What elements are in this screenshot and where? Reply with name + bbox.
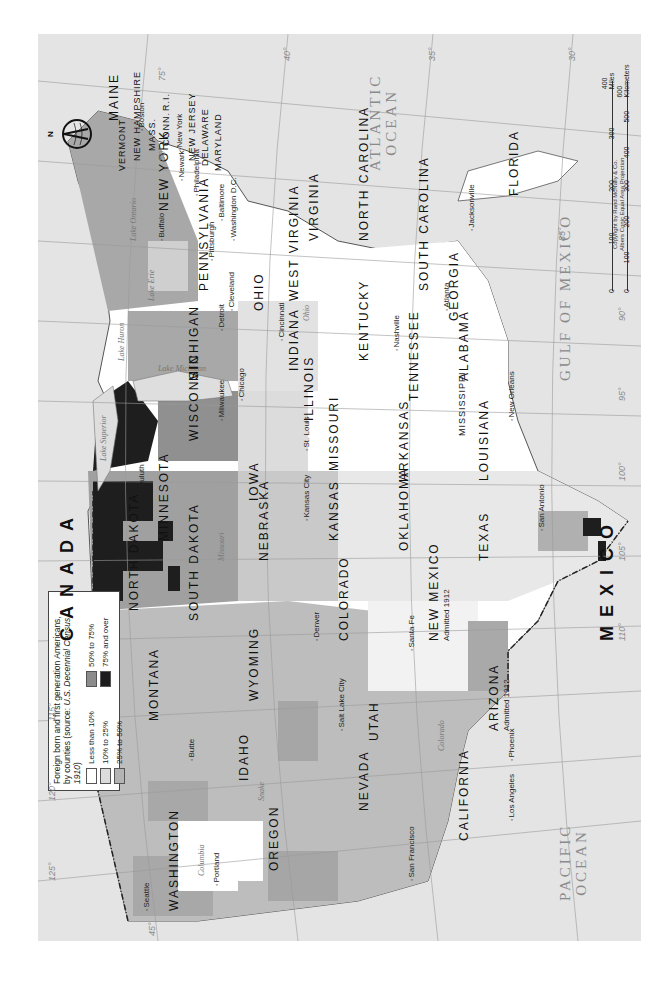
label-mexico: MEXICO xyxy=(598,516,616,641)
label-river-snake: Snake xyxy=(258,782,266,801)
label-delaware: DELAWARE xyxy=(201,108,210,166)
lon-90: 90° xyxy=(618,307,627,321)
legend-label: 25% to 50% xyxy=(115,721,124,764)
city-los-angeles: Los Angeles xyxy=(508,774,516,821)
city-duluth: Duluth xyxy=(138,464,146,491)
label-lake-huron: Lake Huron xyxy=(118,323,126,361)
label-ri: R.I. xyxy=(162,93,171,111)
city-washington-dc: Washington D.C. xyxy=(230,177,238,241)
label-kentucky: KENTUCKY xyxy=(358,280,370,361)
legend-item-25-50: 25% to 50% xyxy=(114,695,125,784)
label-washington: WASHINGTON xyxy=(168,809,180,911)
label-pacific-ocean: PACIFICOCEAN xyxy=(558,824,590,901)
label-nevada: NEVADA xyxy=(358,751,370,811)
city-denver: Denver xyxy=(313,612,321,641)
label-mass: MASS. xyxy=(148,118,157,151)
label-arizona: ARIZONA xyxy=(488,664,500,731)
label-mississippi: MISSISSIPPI xyxy=(458,371,467,436)
city-seattle: Seattle xyxy=(143,883,151,911)
legend-label: 10% to 25% xyxy=(101,721,110,764)
lon-100: 100° xyxy=(618,462,627,481)
compass-rose: N xyxy=(60,117,94,151)
label-wyoming: WYOMING xyxy=(248,627,260,701)
legend-label: Less than 10% xyxy=(87,711,96,764)
legend-item-50-75: 50% to 75% xyxy=(86,598,97,687)
legend-label: 75% and over xyxy=(101,618,110,667)
city-chicago: Chicago xyxy=(238,368,246,401)
label-lake-ontario: Lake Ontario xyxy=(130,198,138,241)
ocean-line: OCEAN xyxy=(573,829,589,896)
city-atlanta: Atlanta xyxy=(443,283,451,311)
lat-30: 30° xyxy=(568,47,577,61)
map-frame: Foreign born and first generation Americ… xyxy=(38,34,641,941)
label-tennessee: TENNESSEE xyxy=(408,310,420,401)
label-illinois: ILLINOIS xyxy=(303,356,315,421)
legend-title-suffix: ) xyxy=(72,762,82,765)
city-boston: Boston xyxy=(138,103,146,131)
legend-label: 50% to 75% xyxy=(87,624,96,667)
city-milwaukee: Milwaukee xyxy=(218,380,226,421)
label-wisconsin: WISCONSIN xyxy=(188,354,200,441)
label-new-mexico-admitted: Admitted 1912 xyxy=(443,589,451,641)
label-atlantic-ocean: ATLANTICOCEAN xyxy=(368,74,400,171)
label-montana: MONTANA xyxy=(148,648,160,721)
legend-title-line1: Foreign born and first generation Americ… xyxy=(52,616,62,784)
label-idaho: IDAHO xyxy=(238,733,250,781)
compass-icon xyxy=(60,117,94,151)
lon-120: 120° xyxy=(48,782,57,801)
city-cincinnati: Cincinnati xyxy=(278,302,286,341)
city-new-orleans: New Orleans xyxy=(508,371,516,421)
label-new-york: NEW YORK xyxy=(158,130,170,211)
city-phoenix: Phoenix xyxy=(508,729,516,761)
swatch-lt10 xyxy=(86,768,97,784)
label-california: CALIFORNIA xyxy=(458,749,470,841)
label-missouri: MISSOURI xyxy=(328,396,340,471)
label-river-columbia: Columbia xyxy=(198,844,206,876)
label-north-dakota: NORTH DAKOTA xyxy=(128,493,140,611)
label-river-colorado: Colorado xyxy=(438,720,446,751)
lon-125: 125° xyxy=(48,862,57,881)
label-maryland: MARYLAND xyxy=(214,113,223,171)
city-butte: Butte xyxy=(188,739,196,761)
city-kansas-city: Kansas City xyxy=(303,475,311,521)
label-lake-superior: Lake Superior xyxy=(100,415,108,461)
map-page: Foreign born and first generation Americ… xyxy=(0,0,671,981)
lat-35: 35° xyxy=(428,47,437,61)
label-nebraska: NEBRASKA xyxy=(258,480,270,561)
label-texas: TEXAS xyxy=(478,512,490,561)
city-portland: Portland xyxy=(213,853,221,886)
lon-85: 85° xyxy=(558,227,567,241)
label-south-carolina: SOUTH CAROLINA xyxy=(418,156,430,291)
label-vermont: VERMONT xyxy=(118,119,127,171)
lon-95: 95° xyxy=(618,387,627,401)
label-ohio: OHIO xyxy=(253,272,265,311)
scale-tick: 100 xyxy=(623,252,630,264)
scale-tick: 0 xyxy=(623,289,630,293)
label-colorado: COLORADO xyxy=(338,556,350,641)
city-detroit: Detroit xyxy=(218,304,226,331)
label-utah: UTAH xyxy=(368,701,380,741)
legend-item-75-over: 75% and over xyxy=(100,598,111,687)
ocean-line: PACIFIC xyxy=(557,824,573,901)
city-new-york: New York xyxy=(176,114,184,151)
scale-tick: 600 Kilometers xyxy=(616,64,630,97)
scale-miles: 0 100 200 300 400 Miles xyxy=(598,81,613,291)
label-virginia: VIRGINIA xyxy=(308,172,320,241)
legend-item-lt10: Less than 10% xyxy=(86,695,97,784)
legend-item-10-25: 10% to 25% xyxy=(100,695,111,784)
copyright-note: Copyright by Rand McNally & Co. Albers C… xyxy=(612,158,625,251)
lat-40: 40° xyxy=(283,47,292,61)
label-oregon: OREGON xyxy=(268,806,280,871)
label-north-carolina: NORTH CAROLINA xyxy=(358,106,370,241)
label-canada: CANADA xyxy=(58,509,76,641)
label-alabama: ALABAMA xyxy=(458,310,470,381)
city-baltimore: Baltimore xyxy=(218,184,226,221)
swatch-50-75 xyxy=(86,671,97,687)
map-canvas: Foreign born and first generation Americ… xyxy=(38,34,641,941)
swatch-25-50 xyxy=(114,768,125,784)
swatch-75-over xyxy=(100,671,111,687)
lat-45: 45° xyxy=(148,922,157,936)
label-south-dakota: SOUTH DAKOTA xyxy=(188,503,200,621)
label-lake-erie: Lake Erie xyxy=(148,270,156,301)
scale-tick: 500 xyxy=(623,111,630,123)
